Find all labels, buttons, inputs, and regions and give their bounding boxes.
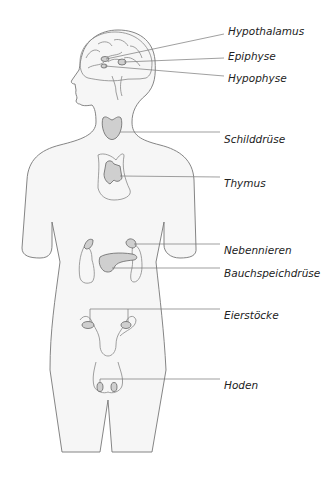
label-schilddruese: Schilddrüse xyxy=(224,134,285,145)
ovary-left xyxy=(82,322,94,329)
label-thymus: Thymus xyxy=(224,178,266,189)
ovary-right xyxy=(121,322,131,329)
label-hoden: Hoden xyxy=(224,380,258,391)
label-hypophyse: Hypophyse xyxy=(228,73,287,84)
label-nebennieren: Nebennieren xyxy=(224,245,292,256)
testis-left xyxy=(97,383,103,392)
hypothalamus-gland xyxy=(101,57,109,62)
label-bauchspeicheldruese: Bauchspeichdrüse xyxy=(224,268,320,279)
label-epiphyse: Epiphyse xyxy=(228,51,276,62)
label-hypothalamus: Hypothalamus xyxy=(228,26,304,37)
testis-right xyxy=(111,383,117,392)
label-eierstoecke: Eierstöcke xyxy=(224,310,279,321)
